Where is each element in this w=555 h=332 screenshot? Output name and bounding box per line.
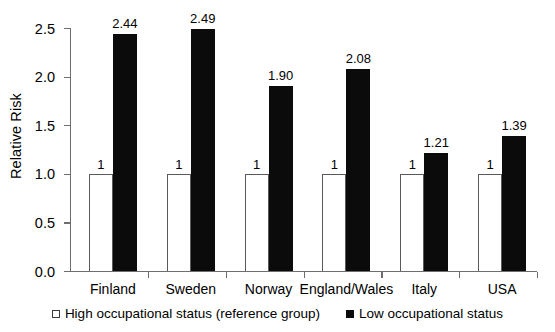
filled-square-icon: [346, 310, 354, 318]
y-axis-title-label: Relative Risk: [8, 93, 24, 179]
bar-value-label: 1: [331, 157, 338, 172]
bar-high-status: 1: [478, 174, 502, 271]
relative-risk-bar-chart: Relative Risk 0.00.51.01.52.02.5 12.4412…: [0, 0, 555, 332]
x-axis-category-label: Norway: [245, 281, 292, 297]
legend-item-label: High occupational status (reference grou…: [65, 306, 320, 321]
legend-item: High occupational status (reference grou…: [52, 306, 320, 321]
y-axis-tick: 1.0: [64, 174, 70, 175]
legend-item-label: Low occupational status: [359, 306, 503, 321]
legend-item: Low occupational status: [346, 306, 503, 321]
bar-low-status: 1.21: [424, 153, 448, 271]
y-axis-tick: 0.0: [64, 271, 70, 272]
y-axis-title: Relative Risk: [4, 0, 28, 272]
x-axis-category-label: Sweden: [165, 281, 216, 297]
y-axis-tick-label: 1.0: [35, 166, 55, 182]
y-axis-tick: 2.5: [64, 28, 70, 29]
bar-high-status: 1: [400, 174, 424, 271]
y-axis-tick-label: 2.5: [35, 21, 55, 37]
x-axis-category-label: USA: [488, 281, 517, 297]
bar-value-label: 2.08: [346, 51, 371, 66]
x-axis-category-label: England/Wales: [300, 281, 394, 297]
y-axis-tick-label: 2.0: [35, 69, 55, 85]
bar-value-label: 2.49: [190, 11, 215, 26]
bar-low-status: 2.49: [191, 29, 215, 271]
bar-low-status: 1.39: [502, 136, 526, 271]
x-axis-tick: [226, 272, 227, 278]
x-axis-tick: [304, 272, 305, 278]
y-axis-tick: 0.5: [64, 222, 70, 223]
plot-area: 0.00.51.01.52.02.5 12.4412.4911.9012.081…: [70, 20, 537, 272]
bar-value-label: 1.39: [501, 118, 526, 133]
bar-low-status: 1.90: [269, 86, 293, 271]
bar-value-label: 1: [175, 157, 182, 172]
y-axis-tick-label: 0.5: [35, 215, 55, 231]
y-axis-tick-label: 0.0: [35, 264, 55, 280]
bar-value-label: 1: [409, 157, 416, 172]
bar-value-label: 1.21: [424, 135, 449, 150]
x-axis-tick: [381, 272, 382, 278]
bar-low-status: 2.44: [113, 34, 137, 271]
bar-high-status: 1: [322, 174, 346, 271]
open-square-icon: [52, 310, 60, 318]
bar-high-status: 1: [89, 174, 113, 271]
bar-value-label: 1: [97, 157, 104, 172]
bar-value-label: 1: [253, 157, 260, 172]
x-axis-tick: [148, 272, 149, 278]
bar-high-status: 1: [167, 174, 191, 271]
bar-value-label: 2.44: [112, 16, 137, 31]
bar-high-status: 1: [245, 174, 269, 271]
x-axis-category-label: Italy: [411, 281, 437, 297]
x-axis-tick: [537, 272, 538, 278]
y-axis-tick: 1.5: [64, 125, 70, 126]
x-axis-tick: [459, 272, 460, 278]
y-axis-line: [70, 28, 71, 272]
y-axis-tick: 2.0: [64, 77, 70, 78]
bar-value-label: 1: [486, 157, 493, 172]
chart-legend: High occupational status (reference grou…: [0, 306, 555, 321]
x-axis-category-label: Finland: [90, 281, 136, 297]
bar-low-status: 2.08: [346, 69, 370, 271]
y-axis-tick-label: 1.5: [35, 118, 55, 134]
bar-value-label: 1.90: [268, 68, 293, 83]
